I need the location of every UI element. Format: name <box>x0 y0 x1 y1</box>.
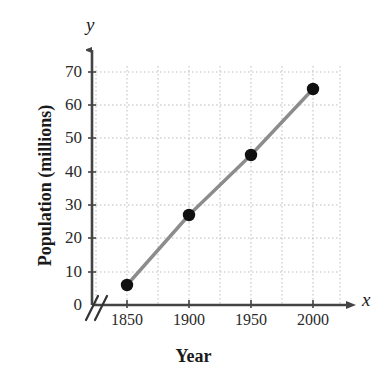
x-tick-label-2000: 2000 <box>285 311 341 329</box>
data-point-1900 <box>183 209 195 221</box>
data-point-2000 <box>307 83 319 95</box>
x-axis-variable-label: x <box>362 289 370 311</box>
x-tick-label-1900: 1900 <box>161 311 217 329</box>
data-point-1850 <box>121 279 133 291</box>
data-point-1950 <box>245 149 257 161</box>
x-tick-label-1950: 1950 <box>223 311 279 329</box>
population-line-chart-figure: 70 60 50 40 30 20 10 0 1850 1900 1950 20… <box>0 0 387 382</box>
y-axis-title: Population (millions) <box>35 71 56 301</box>
horizontal-gridlines <box>96 72 340 272</box>
x-tick-label-1850: 1850 <box>99 311 155 329</box>
y-axis-variable-label: y <box>86 14 94 36</box>
x-axis-title: Year <box>0 346 387 367</box>
